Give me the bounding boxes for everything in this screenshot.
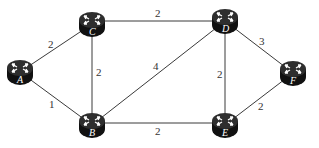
weight-b-d: 4: [153, 60, 159, 72]
weight-d-e: 2: [217, 68, 223, 80]
weight-e-f: 2: [258, 100, 264, 112]
network-diagram: 2 1 2 2 4 2 2 3 2 A B C D E F: [0, 0, 319, 148]
weight-a-b: 1: [49, 98, 55, 110]
router-f: F: [280, 61, 306, 86]
router-f-label: F: [289, 75, 297, 86]
router-b-label: B: [89, 127, 95, 138]
router-c-label: C: [89, 26, 96, 37]
weight-d-f: 3: [259, 35, 265, 47]
router-c: C: [79, 12, 105, 37]
edges: [20, 21, 293, 125]
router-d: D: [212, 9, 238, 34]
weight-c-b: 2: [96, 66, 102, 78]
router-e-label: E: [221, 127, 228, 138]
router-e: E: [212, 113, 238, 138]
router-a: A: [7, 60, 33, 85]
weight-b-e: 2: [155, 125, 161, 137]
router-a-label: A: [16, 74, 24, 85]
weight-a-c: 2: [48, 38, 54, 50]
edge-b-d: [92, 21, 225, 125]
router-b: B: [79, 113, 105, 138]
weight-c-d: 2: [155, 7, 161, 19]
router-d-label: D: [221, 23, 230, 34]
